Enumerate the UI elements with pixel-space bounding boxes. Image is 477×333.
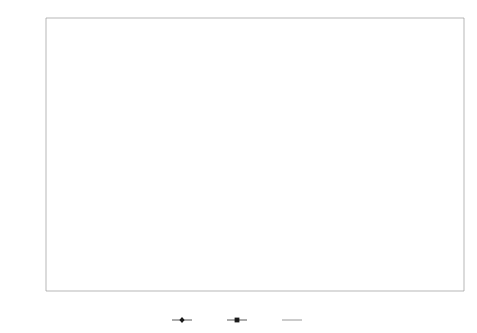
axes-group xyxy=(46,18,464,291)
legend-item-registered-training-contracts[interactable] xyxy=(281,316,306,324)
chart-canvas xyxy=(0,0,477,333)
legend-marker-line-icon xyxy=(281,316,303,324)
legend-item-lsf-lpc-places[interactable] xyxy=(171,316,196,324)
legend-marker-diamond-icon xyxy=(171,316,193,324)
legend-marker-square-icon xyxy=(226,316,248,324)
line-chart xyxy=(0,0,477,333)
chart-legend xyxy=(0,316,477,324)
legend-item-took-lsf-lpc-exam[interactable] xyxy=(226,316,251,324)
